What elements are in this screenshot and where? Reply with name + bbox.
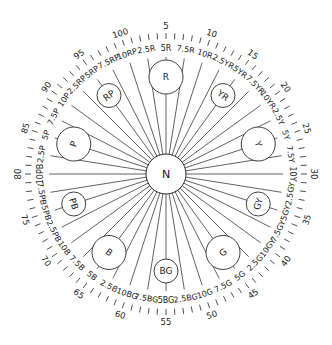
scale-tick bbox=[76, 65, 80, 70]
scale-tick bbox=[231, 292, 234, 297]
scale-tick bbox=[114, 300, 116, 306]
scale-tick bbox=[38, 114, 43, 117]
scale-tick bbox=[69, 71, 73, 75]
scale-tick bbox=[245, 283, 249, 288]
scale-tick bbox=[57, 84, 62, 88]
scale-tick bbox=[252, 65, 256, 70]
scale-tick bbox=[270, 260, 275, 264]
scale-tick bbox=[47, 98, 52, 101]
hue-circle-p: P bbox=[57, 127, 91, 161]
scale-tick bbox=[76, 278, 80, 283]
hue-label: 5G bbox=[233, 269, 247, 283]
scale-number: 95 bbox=[72, 47, 87, 61]
scale-number: 85 bbox=[19, 122, 32, 135]
scale-number: 10 bbox=[205, 27, 218, 40]
scale-number: 55 bbox=[161, 317, 172, 327]
hue-label: 10G bbox=[196, 287, 214, 301]
scale-tick bbox=[106, 296, 109, 301]
scale-tick bbox=[231, 50, 234, 55]
scale-tick bbox=[275, 253, 280, 257]
scale-tick bbox=[300, 191, 306, 192]
scale-tick bbox=[29, 208, 35, 209]
scale-number: 40 bbox=[279, 254, 293, 269]
scale-tick bbox=[57, 260, 62, 264]
scale-tick bbox=[32, 130, 38, 132]
scale-tick bbox=[223, 46, 226, 51]
scale-tick bbox=[42, 239, 47, 242]
scale-tick bbox=[35, 122, 41, 124]
scale-tick bbox=[275, 91, 280, 95]
scale-tick bbox=[98, 50, 101, 55]
hue-circle-b: B bbox=[92, 235, 126, 269]
scale-tick bbox=[300, 156, 306, 157]
hue-label: 5BG bbox=[158, 296, 175, 305]
scale-tick bbox=[216, 300, 218, 306]
hue-label: 10BG bbox=[115, 286, 138, 301]
scale-tick bbox=[299, 148, 305, 149]
scale-tick bbox=[83, 60, 87, 65]
scale-tick bbox=[83, 283, 87, 288]
hue-circle-gy: GY bbox=[246, 192, 270, 216]
scale-tick bbox=[191, 35, 192, 41]
scale-tick bbox=[264, 266, 268, 270]
hue-label: 2.5B bbox=[99, 278, 119, 294]
scale-tick bbox=[292, 122, 298, 124]
scale-tick bbox=[200, 305, 201, 311]
hue-label: 5Y bbox=[280, 129, 292, 141]
scale-tick bbox=[38, 231, 43, 234]
scale-tick bbox=[264, 77, 268, 81]
scale-tick bbox=[223, 296, 226, 301]
scale-tick bbox=[294, 130, 300, 132]
scale-number: 50 bbox=[205, 308, 218, 321]
scale-tick bbox=[297, 139, 303, 140]
hue-circle-yr: YR bbox=[211, 84, 235, 108]
scale-tick bbox=[294, 216, 300, 218]
scale-tick bbox=[299, 199, 305, 200]
hue-circle-label: BG bbox=[160, 266, 173, 276]
scale-tick bbox=[208, 302, 210, 308]
hue-ray bbox=[182, 186, 260, 243]
hue-circle-y: Y bbox=[241, 127, 275, 161]
scale-number: 75 bbox=[19, 213, 32, 226]
hue-label: 10Y bbox=[288, 166, 297, 181]
hue-circle-label: R bbox=[163, 72, 169, 82]
scale-number: 30 bbox=[309, 169, 319, 180]
hue-label: 7.5G bbox=[213, 278, 234, 295]
hue-label: 10PB bbox=[36, 164, 45, 185]
scale-tick bbox=[131, 37, 132, 43]
hue-label: 5R bbox=[161, 44, 172, 53]
scale-tick bbox=[90, 55, 93, 60]
hue-label: 2.5BG bbox=[173, 292, 198, 305]
scale-number: 35 bbox=[300, 213, 313, 226]
hue-circle-r: R bbox=[149, 60, 183, 94]
hue-label: 2.5R bbox=[137, 44, 157, 56]
scale-tick bbox=[292, 224, 298, 226]
scale-tick bbox=[258, 272, 262, 276]
scale-tick bbox=[63, 266, 67, 270]
scale-tick bbox=[183, 308, 184, 314]
scale-tick bbox=[29, 139, 35, 140]
scale-tick bbox=[63, 77, 67, 81]
scale-tick bbox=[252, 278, 256, 283]
scale-tick bbox=[270, 84, 275, 88]
scale-tick bbox=[90, 288, 93, 293]
scale-tick bbox=[288, 231, 293, 234]
hue-label: 7.5P bbox=[46, 107, 62, 127]
scale-tick bbox=[47, 246, 52, 249]
hue-circle-bg: BG bbox=[154, 259, 178, 283]
scale-tick bbox=[26, 191, 32, 192]
hue-label: 7.5PB bbox=[35, 182, 47, 206]
munsell-hue-wheel: RYRYGYGBGBPBPRP N 2.5R5R7.5R10R2.5YR5YR7… bbox=[0, 0, 332, 345]
scale-tick bbox=[35, 224, 41, 226]
scale-tick bbox=[258, 71, 262, 75]
hue-label: 2.5GY bbox=[284, 181, 297, 206]
hue-label: 7.5R bbox=[176, 44, 196, 56]
scale-tick bbox=[245, 60, 249, 65]
scale-tick bbox=[42, 106, 47, 109]
scale-tick bbox=[238, 55, 241, 60]
scale-tick bbox=[140, 307, 141, 313]
hue-label: 5PB bbox=[40, 204, 53, 221]
scale-number: 80 bbox=[13, 169, 23, 180]
scale-tick bbox=[216, 43, 218, 49]
scale-tick bbox=[288, 114, 293, 117]
